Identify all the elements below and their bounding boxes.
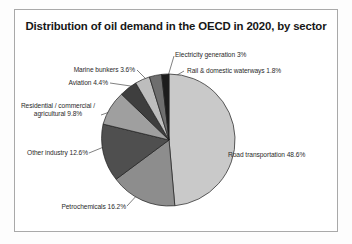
pie-label-residential-line2: agricultural 9.8% — [34, 110, 82, 117]
pie-label-rail-domestic-waterways: Rail & domestic waterways 1.8% — [187, 67, 281, 75]
pie-chart: Electricity generation 3% Rail & domesti… — [15, 10, 339, 233]
pie-slice-road-transportation[interactable] — [169, 74, 235, 206]
pie-label-residential-line1: Residential / commercial / — [21, 102, 95, 109]
pie-label-marine-bunkers: Marine bunkers 3.6% — [15, 66, 135, 74]
pie-label-petrochemicals: Petrochemicals 16.2% — [15, 203, 126, 211]
pie-wedges — [15, 10, 339, 233]
scanned-page: Distribution of oil demand in the OECD i… — [0, 0, 352, 244]
pie-label-road-transportation: Road transportation 48.6% — [228, 151, 305, 159]
pie-label-residential-commercial-agricultural: Residential / commercial / agricultural … — [15, 102, 101, 118]
pie-label-other-industry: Other industry 12.6% — [15, 149, 88, 157]
pie-label-electricity-generation: Electricity generation 3% — [175, 51, 246, 59]
chart-frame: Distribution of oil demand in the OECD i… — [14, 9, 338, 232]
pie-label-aviation: Aviation 4.4% — [15, 79, 108, 87]
